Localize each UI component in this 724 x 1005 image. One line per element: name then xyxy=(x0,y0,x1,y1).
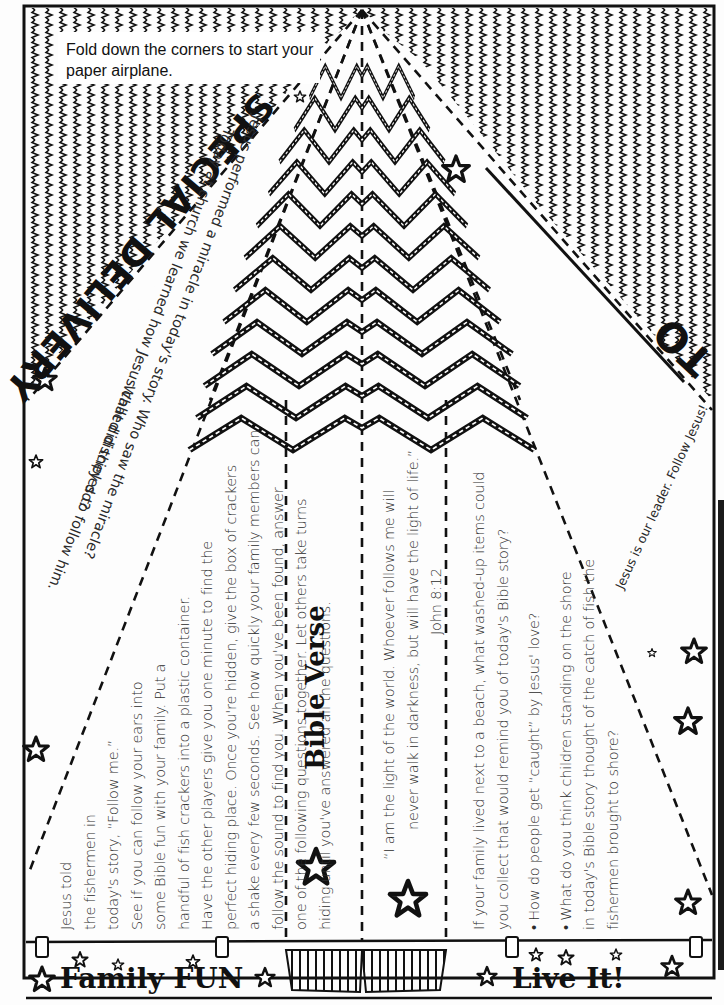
verse-reference: John 8:12 xyxy=(425,450,449,860)
family-fun-line: Jesus told xyxy=(55,430,79,930)
live-it-line: If your family lived next to a beach, wh… xyxy=(468,472,492,930)
live-it-line: you collect that would remind you of tod… xyxy=(492,472,516,930)
bible-verse-text: “I am the light of the world. Whoever fo… xyxy=(378,450,449,860)
family-fun-line: handful of fish crackers into a plastic … xyxy=(173,430,197,930)
bible-verse-heading: Bible Verse xyxy=(300,605,330,770)
live-it-question: in today's Bible story thought of the ca… xyxy=(578,472,602,930)
family-fun-line: a shake every few seconds. See how quick… xyxy=(243,430,267,930)
family-fun-line: perfect hiding place. Once you're hidden… xyxy=(220,430,244,930)
live-it-heading: Live It! xyxy=(512,962,624,995)
scan-edge-shadow xyxy=(718,500,724,970)
family-fun-heading: Family FUN xyxy=(60,962,243,995)
family-fun-line: See if you can follow your ears into xyxy=(126,430,150,930)
live-it-question: fishermen brought to shore? xyxy=(602,472,626,930)
live-it-text: If your family lived next to a beach, wh… xyxy=(468,472,625,930)
family-fun-text: Jesus told the fishermen in today's stor… xyxy=(55,430,337,930)
live-it-question: • How do people get “caught” by Jesus' l… xyxy=(523,472,547,930)
family-fun-line: some Bible fun with your family. Put a xyxy=(149,430,173,930)
verse-line: “I am the light of the world. Whoever fo… xyxy=(378,450,402,860)
paper-airplane-sheet: Fold down the corners to start your pape… xyxy=(0,0,724,1005)
verse-line: never walk in darkness, but will have th… xyxy=(402,450,426,860)
family-fun-line: follow the sound to find you. When you'v… xyxy=(267,430,291,930)
live-it-question: • What do you think children standing on… xyxy=(555,472,579,930)
fold-instruction: Fold down the corners to start your pape… xyxy=(62,37,320,83)
family-fun-line: today's story, “Follow me.” xyxy=(102,430,126,930)
family-fun-line: Have the other players give you one minu… xyxy=(196,430,220,930)
family-fun-line: the fishermen in xyxy=(79,430,103,930)
